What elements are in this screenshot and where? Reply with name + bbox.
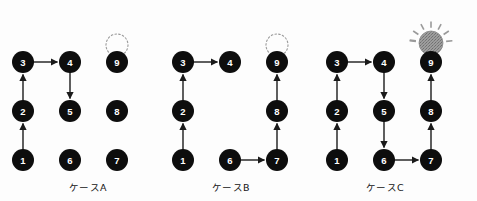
node-label: 3 — [20, 57, 25, 68]
node-label: 6 — [381, 155, 386, 166]
node-C-7: 7 — [420, 149, 442, 171]
node-label: 2 — [334, 106, 339, 117]
node-C-2: 2 — [326, 100, 348, 122]
markers-layer — [106, 22, 452, 57]
node-A-4: 4 — [59, 51, 81, 73]
node-B-2: 2 — [172, 100, 194, 122]
node-A-8: 8 — [106, 100, 128, 122]
node-label: 3 — [180, 57, 185, 68]
node-label: 4 — [67, 57, 73, 68]
node-label: 2 — [180, 106, 185, 117]
node-label: 7 — [428, 155, 433, 166]
node-label: 8 — [274, 106, 279, 117]
node-label: 1 — [20, 155, 26, 166]
node-label: 4 — [227, 57, 233, 68]
node-B-9: 9 — [266, 51, 288, 73]
node-A-7: 7 — [106, 149, 128, 171]
node-label: 5 — [381, 106, 387, 117]
node-C-5: 5 — [373, 100, 395, 122]
edges-layer — [23, 62, 431, 160]
node-label: 5 — [67, 106, 73, 117]
node-label: 9 — [428, 57, 433, 68]
node-C-8: 8 — [420, 100, 442, 122]
node-B-3: 3 — [172, 51, 194, 73]
node-B-6: 6 — [219, 149, 241, 171]
node-label: 7 — [274, 155, 279, 166]
case-label-C: ケースC — [366, 180, 404, 194]
node-label: 6 — [67, 155, 72, 166]
node-C-6: 6 — [373, 149, 395, 171]
diagram-canvas: 12345678912346789123456789 ケースAケースBケースC — [0, 0, 477, 201]
light-bulb-icon-case-C — [410, 22, 453, 56]
case-label-A: ケースA — [69, 180, 107, 194]
node-A-3: 3 — [12, 51, 34, 73]
node-B-1: 1 — [172, 149, 194, 171]
node-label: 2 — [20, 106, 25, 117]
node-A-5: 5 — [59, 100, 81, 122]
node-B-8: 8 — [266, 100, 288, 122]
diagram-svg: 12345678912346789123456789 — [0, 0, 477, 201]
node-A-9: 9 — [106, 51, 128, 73]
node-B-4: 4 — [219, 51, 241, 73]
node-label: 3 — [334, 57, 339, 68]
node-label: 8 — [428, 106, 433, 117]
node-C-1: 1 — [326, 149, 348, 171]
nodes-layer: 12345678912346789123456789 — [12, 51, 442, 171]
node-label: 7 — [114, 155, 119, 166]
node-label: 9 — [114, 57, 119, 68]
node-label: 6 — [227, 155, 232, 166]
node-C-4: 4 — [373, 51, 395, 73]
node-label: 1 — [180, 155, 186, 166]
node-label: 4 — [381, 57, 387, 68]
node-A-6: 6 — [59, 149, 81, 171]
node-A-1: 1 — [12, 149, 34, 171]
node-label: 9 — [274, 57, 279, 68]
node-label: 8 — [114, 106, 119, 117]
case-label-B: ケースB — [212, 180, 250, 194]
node-label: 1 — [334, 155, 340, 166]
node-A-2: 2 — [12, 100, 34, 122]
node-C-9: 9 — [420, 51, 442, 73]
node-C-3: 3 — [326, 51, 348, 73]
node-B-7: 7 — [266, 149, 288, 171]
